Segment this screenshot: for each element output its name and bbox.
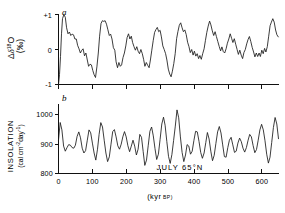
panel-b-ytick-1000: 1000 <box>36 110 53 119</box>
xtick-label-400: 400 <box>188 177 201 186</box>
panel-a-ytick-minus1: -1 <box>45 80 52 89</box>
svg-text:(cal cm-2day-1): (cal cm-2day-1) <box>15 124 25 167</box>
panel-b-ytick-900: 900 <box>40 140 53 149</box>
panel-a: Δδ18O (‰) a +1 0 -1 <box>6 7 279 89</box>
paleoclimate-figure: Δδ18O (‰) a +1 0 -1 <box>0 0 285 213</box>
julep-annotation: JULY 65°N <box>157 163 204 172</box>
figure-container: Δδ18O (‰) a +1 0 -1 <box>0 0 285 213</box>
panel-b-xlabel: (kyrBP) <box>147 192 173 201</box>
xtick-label-500: 500 <box>222 177 235 186</box>
xtick-label-200: 200 <box>120 177 133 186</box>
xtick-label-300: 300 <box>154 177 167 186</box>
xtick-label-100: 100 <box>86 177 99 186</box>
xlabel-main: (kyr <box>147 192 161 201</box>
panel-b-letter: b <box>62 93 67 103</box>
xlabel-suffix: BP) <box>163 194 173 200</box>
panel-b-ylabel-main: INSOLATION <box>6 120 15 172</box>
panel-b-ytick-800: 800 <box>40 169 53 178</box>
ylabel-unit: (‰) <box>15 39 25 53</box>
panel-a-ytick-plus1: +1 <box>43 11 52 20</box>
panel-b-curve <box>59 110 279 165</box>
panel-a-xticks <box>59 85 262 90</box>
xtick-label-600: 600 <box>256 177 269 186</box>
panel-a-ytick-0: 0 <box>48 46 52 55</box>
xtick-label-0: 0 <box>56 177 60 186</box>
panel-a-curve <box>59 15 279 85</box>
panel-b-ylabel-unit: (cal cm-2day-1) <box>15 124 25 167</box>
panel-b-ylabel: INSOLATION <box>6 120 15 172</box>
panel-b-xtick-labels: 0 100 200 300 400 500 600 <box>56 177 268 186</box>
panel-a-ylabel: Δδ18O (‰) <box>6 37 25 60</box>
panel-b: INSOLATION (cal cm-2day-1) b 1000 900 80… <box>6 93 279 201</box>
